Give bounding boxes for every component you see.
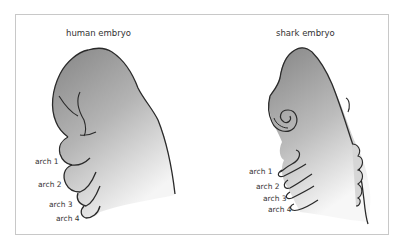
- human-arch-3-label: arch 3: [49, 200, 73, 209]
- shark-arch-3-label: arch 3: [263, 194, 287, 203]
- shark-embryo-title: shark embryo: [276, 28, 335, 38]
- embryo-illustration: [0, 0, 406, 249]
- human-arch-4-label: arch 4: [56, 214, 80, 223]
- human-arch-2-label: arch 2: [38, 180, 62, 189]
- human-embryo-shape: [53, 48, 175, 218]
- shark-arch-1-label: arch 1: [249, 167, 273, 176]
- human-embryo-title: human embryo: [66, 28, 131, 38]
- human-arch-1-label: arch 1: [35, 157, 59, 166]
- shark-arch-2-label: arch 2: [256, 182, 280, 191]
- shark-arch-4-label: arch 4: [268, 205, 292, 214]
